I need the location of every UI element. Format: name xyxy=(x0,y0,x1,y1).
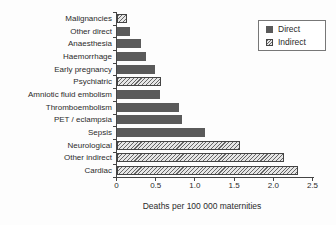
bar-track xyxy=(116,128,336,137)
y-tick xyxy=(113,63,116,64)
chart-row: Sepsis xyxy=(0,126,336,139)
bar-direct xyxy=(117,115,182,124)
y-tick xyxy=(113,164,116,165)
legend-label-direct: Direct xyxy=(278,25,300,34)
category-label: Cardiac xyxy=(0,166,116,175)
x-tick-label: 2.0 xyxy=(268,181,279,190)
bar-indirect xyxy=(117,153,285,162)
x-axis-line xyxy=(116,177,314,178)
bar-track xyxy=(116,90,336,99)
category-label: Other indirect xyxy=(0,153,116,162)
y-tick xyxy=(113,114,116,115)
indirect-swatch-icon xyxy=(266,39,273,46)
bar-indirect xyxy=(117,166,298,175)
bar-track xyxy=(116,166,336,175)
y-tick xyxy=(113,101,116,102)
bar-indirect xyxy=(117,14,127,23)
y-tick xyxy=(113,75,116,76)
x-tick-label: 1.5 xyxy=(229,181,240,190)
bar-track xyxy=(116,103,336,112)
category-label: Haemorrhage xyxy=(0,52,116,61)
chart-row: Psychiatric xyxy=(0,75,336,88)
category-label: Amniotic fluid embolism xyxy=(0,90,116,99)
category-label: Neurological xyxy=(0,141,116,150)
chart-row: Haemorrhage xyxy=(0,50,336,63)
chart-row: Early pregnancy xyxy=(0,63,336,76)
legend-entry-direct: Direct xyxy=(266,24,325,34)
y-tick xyxy=(113,50,116,51)
legend: Direct Indirect xyxy=(258,20,326,51)
x-tick-label: 0.5 xyxy=(150,181,161,190)
y-tick xyxy=(113,25,116,26)
y-tick xyxy=(113,139,116,140)
y-tick xyxy=(113,126,116,127)
chart-row: Amniotic fluid embolism xyxy=(0,88,336,101)
bar-direct xyxy=(117,27,130,36)
bar-track xyxy=(116,115,336,124)
y-tick xyxy=(113,37,116,38)
bar-track xyxy=(116,77,336,86)
bar-indirect xyxy=(117,77,162,86)
category-label: Other direct xyxy=(0,27,116,36)
y-tick xyxy=(113,88,116,89)
category-label: Psychiatric xyxy=(0,77,116,86)
chart-row: PET / eclampsia xyxy=(0,114,336,127)
bar-direct xyxy=(117,103,180,112)
y-tick xyxy=(113,152,116,153)
bar-chart-figure: MalignanciesOther directAnaesthesiaHaemo… xyxy=(0,0,336,225)
category-label: Early pregnancy xyxy=(0,65,116,74)
bar-direct xyxy=(117,52,147,61)
bar-track xyxy=(116,153,336,162)
bar-direct xyxy=(117,39,141,48)
x-axis-title: Deaths per 100 000 maternities xyxy=(115,201,289,211)
bar-indirect xyxy=(117,141,240,150)
x-tick-label: 0 xyxy=(114,181,118,190)
chart-row: Other indirect xyxy=(0,152,336,165)
y-axis-line xyxy=(116,12,117,178)
bar-track xyxy=(116,52,336,61)
category-label: Sepsis xyxy=(0,128,116,137)
y-tick xyxy=(113,12,116,13)
bar-track xyxy=(116,65,336,74)
bar-direct xyxy=(117,90,161,99)
x-tick-label: 2.5 xyxy=(307,181,318,190)
category-label: PET / eclampsia xyxy=(0,115,116,124)
category-label: Malignancies xyxy=(0,14,116,23)
category-label: Anaesthesia xyxy=(0,39,116,48)
chart-row: Neurological xyxy=(0,139,336,152)
x-tick-label: 1.0 xyxy=(189,181,200,190)
direct-swatch-icon xyxy=(266,26,273,33)
chart-row: Cardiac xyxy=(0,164,336,177)
chart-row: Thromboembolism xyxy=(0,101,336,114)
legend-label-indirect: Indirect xyxy=(278,38,306,47)
bar-track xyxy=(116,141,336,150)
category-label: Thromboembolism xyxy=(0,103,116,112)
bar-direct xyxy=(117,65,155,74)
legend-entry-indirect: Indirect xyxy=(266,37,325,47)
bar-direct xyxy=(117,128,206,137)
